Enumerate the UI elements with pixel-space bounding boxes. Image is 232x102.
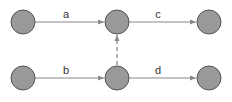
graph-svg: a b c d	[0, 0, 232, 102]
node-n4	[11, 66, 35, 90]
edge-label-a: a	[63, 8, 70, 20]
edge-label-c: c	[155, 8, 161, 20]
graph-diagram: a b c d	[0, 0, 232, 102]
node-n6	[197, 66, 221, 90]
node-n1	[11, 10, 35, 34]
node-n3	[197, 10, 221, 34]
node-n5	[105, 66, 129, 90]
edge-label-b: b	[63, 64, 69, 76]
node-n2	[105, 10, 129, 34]
edge-label-d: d	[155, 64, 161, 76]
